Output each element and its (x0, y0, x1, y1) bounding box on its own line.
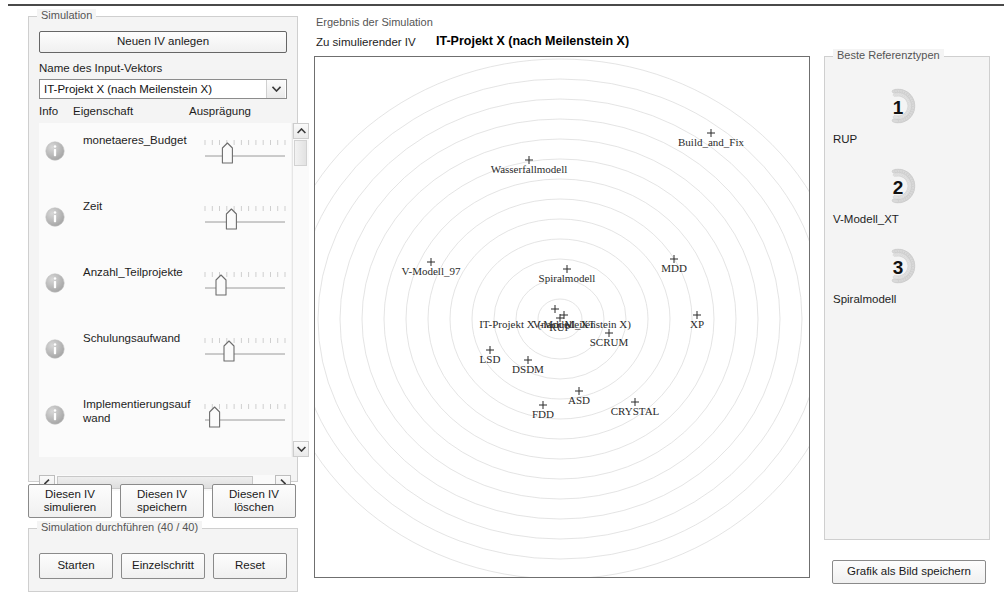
save-iv-button[interactable]: Diesen IV speichern (120, 484, 204, 518)
reset-button[interactable]: Reset (213, 553, 287, 579)
simulation-result-panel: Ergebnis der Simulation Zu simulierender… (312, 16, 812, 590)
point-label: IT-Projekt X (nach Meilenstein X) (479, 318, 631, 331)
info-icon[interactable] (45, 405, 65, 425)
property-name: Implementierungsaufwand (83, 397, 191, 425)
save-graphic-button[interactable]: Grafik als Bild speichern (832, 560, 986, 584)
rank-medal-icon-2: 2 (875, 163, 921, 209)
property-name: Zeit (83, 199, 191, 213)
info-icon[interactable] (45, 207, 65, 227)
rank-medal-icon-3: 3 (875, 243, 921, 289)
result-group-title: Ergebnis der Simulation (316, 16, 433, 28)
input-vector-select[interactable]: IT-Projekt X (nach Meilenstein X) (39, 79, 287, 99)
info-icon[interactable] (45, 273, 65, 293)
delete-iv-button[interactable]: Diesen IV löschen (212, 484, 296, 518)
point-label: Build_and_Fix (678, 136, 745, 148)
point-label: CRYSTAL (611, 405, 660, 417)
point-label: Wasserfallmodell (491, 163, 568, 175)
data-point[interactable]: ASD (568, 387, 590, 406)
iv-name-value: IT-Projekt X (nach Meilenstein X) (436, 34, 629, 48)
property-name: Anzahl_Teilprojekte (83, 265, 191, 279)
data-point[interactable]: LSD (480, 346, 501, 365)
column-header-property: Eigenschaft (73, 105, 133, 117)
point-label: DSDM (512, 363, 544, 375)
reference-type-name: Spiralmodell (833, 293, 896, 305)
chevron-down-icon[interactable] (266, 80, 285, 98)
data-point[interactable]: SCRUM (590, 329, 629, 348)
property-value-slider[interactable] (199, 335, 291, 365)
point-marker (551, 305, 559, 313)
data-point[interactable]: MDD (661, 255, 687, 274)
svg-text:3: 3 (893, 257, 904, 278)
similarity-scatter-plot[interactable]: Build_and_FixWasserfallmodellV-Modell_97… (314, 56, 810, 578)
single-step-button[interactable]: Einzelschritt (121, 553, 205, 579)
column-header-value: Ausprägung (189, 105, 251, 117)
svg-text:2: 2 (893, 177, 904, 198)
run-simulation-group: Simulation durchführen (40 / 40) Starten… (28, 528, 298, 592)
scrollbar-thumb-vertical[interactable] (294, 140, 307, 166)
best-reference-types-title: Beste Referenztypen (833, 49, 944, 61)
rank-medal-icon-1: 1 (875, 83, 921, 129)
property-value-slider[interactable] (199, 203, 291, 233)
property-row[interactable]: Zeit (39, 189, 291, 255)
point-label: SCRUM (590, 336, 629, 348)
point-label: XP (690, 318, 704, 330)
point-label: FDD (532, 408, 554, 420)
new-iv-button[interactable]: Neuen IV anlegen (39, 31, 287, 53)
scatter-canvas: Build_and_FixWasserfallmodellV-Modell_97… (315, 57, 809, 577)
data-point[interactable]: CRYSTAL (611, 398, 660, 417)
property-value-slider[interactable] (199, 137, 291, 167)
best-reference-types-group: Beste Referenztypen 1RUP2V-Modell_XT3Spi… (824, 56, 990, 540)
property-list-vertical-scrollbar[interactable] (292, 123, 309, 457)
iv-action-buttons: Diesen IV simulieren Diesen IV speichern… (28, 484, 296, 520)
data-point[interactable]: V-Modell_97 (402, 258, 461, 277)
info-icon[interactable] (45, 141, 65, 161)
input-vector-select-value: IT-Projekt X (nach Meilenstein X) (40, 83, 266, 95)
run-simulation-group-title: Simulation durchführen (40 / 40) (37, 521, 202, 533)
iv-caption-label: Zu simulierender IV (316, 36, 416, 48)
property-value-slider[interactable] (199, 269, 291, 299)
reference-type-name: V-Modell_XT (833, 213, 899, 225)
page-top-rule (8, 4, 1004, 6)
point-label: V-Modell_97 (402, 265, 461, 277)
reference-type-name: RUP (833, 133, 857, 145)
property-row[interactable]: Schulungsaufwand (39, 321, 291, 387)
application-window: Simulation Neuen IV anlegen Name des Inp… (0, 0, 1004, 616)
input-vector-name-label: Name des Input-Vektors (39, 62, 162, 74)
property-list-wrap: monetaeres_BudgetZeitAnzahl_Teilprojekte… (39, 123, 307, 473)
svg-text:1: 1 (893, 97, 904, 118)
data-points: Build_and_FixWasserfallmodellV-Modell_97… (402, 129, 745, 420)
property-name: Schulungsaufwand (83, 331, 191, 345)
property-row[interactable]: monetaeres_Budget (39, 123, 291, 189)
property-row[interactable]: Anzahl_Teilprojekte (39, 255, 291, 321)
point-label: ASD (568, 394, 590, 406)
start-button[interactable]: Starten (39, 553, 113, 579)
info-icon[interactable] (45, 339, 65, 359)
property-value-slider[interactable] (199, 401, 291, 431)
column-header-info: Info (39, 105, 58, 117)
scroll-down-icon[interactable] (293, 441, 309, 457)
point-label: MDD (661, 262, 687, 274)
data-point[interactable]: IT-Projekt X (nach Meilenstein X) (479, 305, 631, 331)
point-label: LSD (480, 353, 501, 365)
property-table-header: Info Eigenschaft Ausprägung (39, 105, 287, 121)
property-name: monetaeres_Budget (83, 133, 191, 147)
property-row[interactable]: Implementierungsaufwand (39, 387, 291, 453)
point-label: Spiralmodell (539, 272, 596, 284)
property-list[interactable]: monetaeres_BudgetZeitAnzahl_Teilprojekte… (39, 123, 291, 457)
data-point[interactable]: FDD (532, 401, 554, 420)
simulation-group-title: Simulation (37, 9, 96, 21)
simulate-iv-button[interactable]: Diesen IV simulieren (28, 484, 112, 518)
data-point[interactable]: Spiralmodell (539, 265, 596, 284)
scroll-up-icon[interactable] (293, 123, 309, 139)
data-point[interactable]: DSDM (512, 356, 544, 375)
simulation-group: Simulation Neuen IV anlegen Name des Inp… (28, 16, 298, 482)
